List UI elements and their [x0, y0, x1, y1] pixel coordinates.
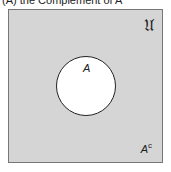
complement-base: A	[141, 143, 148, 155]
set-a-circle: A	[56, 56, 116, 116]
complement-superscript: c	[148, 141, 152, 150]
set-a-label: A	[83, 62, 90, 74]
figure-caption: (A) the Complement of A	[2, 0, 122, 6]
complement-label: Ac	[141, 141, 152, 155]
universal-set-label: 𝔘	[144, 16, 154, 35]
universal-set-rectangle: 𝔘 A Ac	[8, 9, 163, 163]
